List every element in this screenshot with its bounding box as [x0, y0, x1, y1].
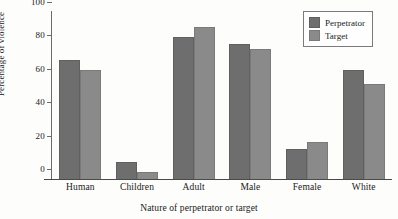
legend-item-target[interactable]: Target [309, 29, 365, 42]
x-axis-tick-label-female: Female [279, 182, 336, 192]
legend-item-perpetrator[interactable]: Perpetrator [309, 16, 365, 29]
bar-white-perpetrator [343, 70, 364, 179]
bar-human-target [80, 70, 101, 179]
y-axis-tick-100: 100 [31, 0, 52, 7]
y-axis-tick-40: 40 [36, 97, 52, 107]
bar-adult-target [194, 27, 215, 179]
bar-group-children [109, 12, 166, 179]
x-axis-tick-label-human: Human [52, 182, 109, 192]
legend-swatch-icon-perpetrator [309, 17, 320, 28]
y-axis-tick-0: 0 [40, 164, 52, 174]
bar-female-perpetrator [286, 149, 307, 179]
x-axis-tick-label-adult: Adult [165, 182, 222, 192]
bar-human-perpetrator [59, 60, 80, 179]
bar-chart-figure: Percentage of violence 020406080100 Huma… [0, 0, 398, 219]
bar-group-male [222, 12, 279, 179]
bar-children-perpetrator [116, 162, 137, 179]
bar-group-human [52, 12, 109, 179]
bar-children-target [137, 172, 158, 179]
x-axis-label: Nature of perpetrator or target [0, 203, 398, 213]
bar-adult-perpetrator [173, 37, 194, 179]
legend-swatch-icon-target [309, 30, 320, 41]
y-tick-mark [47, 2, 52, 3]
y-axis-tick-60: 60 [36, 64, 52, 74]
bar-female-target [307, 142, 328, 179]
x-axis-tick-label-male: Male [222, 182, 279, 192]
chart-legend: Perpetrator Target [303, 11, 373, 47]
bar-group-adult [165, 12, 222, 179]
legend-label-perpetrator: Perpetrator [325, 18, 365, 28]
y-axis-tick-80: 80 [36, 30, 52, 40]
bar-male-target [250, 49, 271, 179]
x-axis-tick-label-children: Children [109, 182, 166, 192]
legend-label-target: Target [325, 31, 348, 41]
y-axis-label: Percentage of violence [0, 12, 6, 96]
x-axis-tick-labels: HumanChildrenAdultMaleFemaleWhite [52, 182, 392, 192]
bar-male-perpetrator [229, 44, 250, 179]
x-axis-tick-label-white: White [335, 182, 392, 192]
y-axis-tick-20: 20 [36, 131, 52, 141]
x-axis-line [44, 179, 392, 180]
bar-white-target [364, 84, 385, 179]
